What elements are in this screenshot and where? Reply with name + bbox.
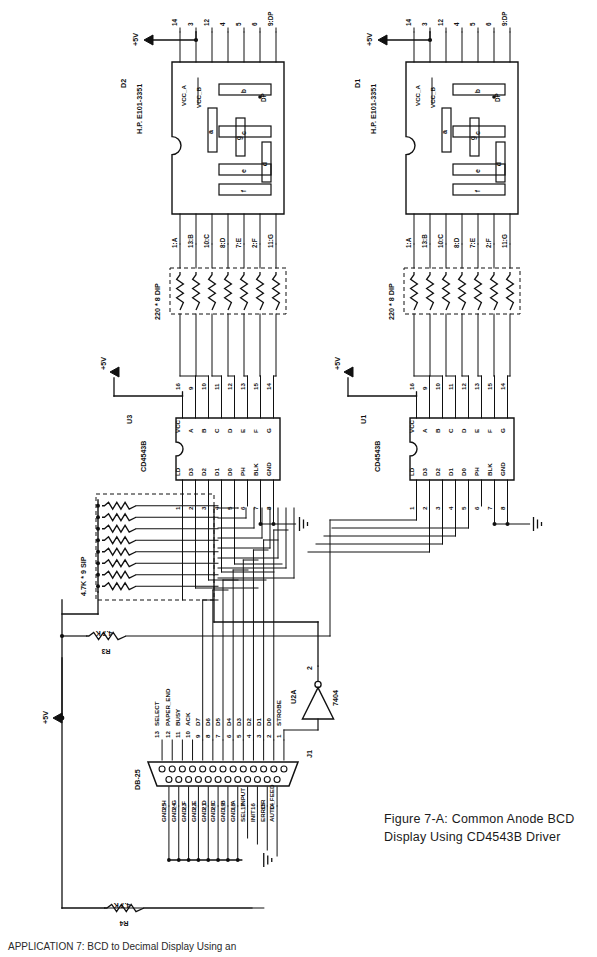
ic-pin-number-bottom: 6 [473, 506, 480, 510]
ic-pin-number-top: 15 [252, 383, 259, 390]
ic-pin-name-bottom: GND [499, 462, 506, 476]
db25-gnd-junction [236, 858, 240, 862]
display-pin-label-bottom: 10:C [203, 234, 210, 248]
display-segment-label-b: b [474, 89, 481, 93]
db25-pin-name-top: D5 [214, 718, 221, 726]
ic-vcc-rail-label: +5V [99, 357, 108, 370]
ic-pin-name-top: E [473, 429, 480, 433]
db25-pin-name-bottom: GND_H [160, 800, 167, 822]
db25-pin-number-top: 13 [153, 731, 160, 738]
ic-pin-name-bottom: D0 [460, 468, 467, 476]
display-segment-label-e: e [474, 169, 481, 173]
ic-pin-name-top: VCC [174, 419, 181, 433]
db25-pin-name-bottom: GND_E [190, 801, 197, 822]
display-part-D1: H.P. E101-3351 [369, 84, 378, 134]
db25-pin-number-top: 8 [204, 734, 211, 738]
ic-part-U1: CD4543B [373, 440, 382, 472]
db25-pin-number-top: 3 [255, 734, 262, 738]
ic-pin-name-bottom: BLK [486, 463, 493, 476]
display-pin-label-bottom: 1:A [171, 237, 178, 248]
db25-pin-name-bottom: AUTO_FEED [268, 784, 275, 822]
ic-pin-number-top: 13 [473, 383, 480, 390]
ic-pin-name-top: B [434, 428, 441, 433]
display-segment-label-a: a [441, 130, 448, 134]
display-pin-label-bottom: 2:F [251, 238, 258, 248]
db25-pin-name-bottom: ERROR [259, 799, 266, 822]
ic-pin-name-bottom: D1 [213, 468, 220, 476]
resistor-pack-label: 220 * 8 DIP [387, 283, 396, 320]
ic-pin-name-bottom: BLK [252, 463, 259, 476]
db25-pin-name-bottom: GND_B [219, 800, 226, 822]
display-pin-label-bottom: 13:B [187, 234, 194, 248]
display-pin-label-bottom: 10:C [437, 234, 444, 248]
resistor-pack-label: 220 * 8 DIP [153, 283, 162, 320]
ic-pin-name-top: C [213, 428, 220, 433]
db25-ref-label: J1 [305, 750, 314, 758]
inverter-part-label: 7404 [331, 690, 340, 706]
r3-ref-label: R3 [101, 648, 110, 655]
ic-pin-name-top: D [226, 428, 233, 433]
db25-pin-number-top: 1 [275, 734, 282, 738]
ic-gnd-junction [493, 522, 497, 526]
display-segment-label-g: g [235, 136, 243, 140]
display-segment-label-a: a [207, 130, 214, 134]
db25-pin-number-top: 7 [214, 734, 221, 738]
ic-pin-number-bottom: 3 [200, 506, 207, 510]
ic-pin-name-top: F [252, 429, 259, 433]
sip-common-junction [96, 573, 100, 577]
ic-pin-number-top: 14 [265, 383, 272, 390]
display-pin-label-bottom: 1:A [405, 237, 412, 248]
r4-ref-label: R4 [119, 920, 128, 927]
ic-ref-U1: U1 [359, 415, 368, 424]
db25-pin-name-bottom: GND_G [170, 800, 177, 822]
db25-pin-name-top: BUSY [174, 708, 181, 726]
db25-pin-name-top: D0 [265, 718, 272, 726]
display-pin-number-top: 5 [235, 22, 242, 26]
db25-pin-name-bottom: GND_C [209, 800, 216, 822]
db25-pin-name-top: D2 [245, 718, 252, 726]
display-pin-number-top: 14 [405, 18, 412, 26]
display-segment-label-e: e [240, 169, 247, 173]
ic-pin-number-bottom: 6 [239, 506, 246, 510]
display-ref-D2: D2 [119, 79, 128, 88]
sip-common-junction [96, 584, 100, 588]
display-pin-label-bottom: 2:F [485, 238, 492, 248]
db25-pin-number-top: 9 [194, 734, 201, 738]
sip-common-junction [96, 561, 100, 565]
display-pin-label-bottom: 8:D [219, 237, 226, 248]
display-segment-label-b: b [240, 89, 247, 93]
ic-vcc-rail-label: +5V [333, 357, 342, 370]
ic-pin-name-bottom: D3 [421, 468, 428, 476]
ic-pin-number-top: 11 [447, 383, 454, 390]
figure-caption: Figure 7-A: Common Anode BCD Display Usi… [384, 812, 574, 844]
ic-pin-number-top: 13 [239, 383, 246, 390]
ic-part-U3: CD4543B [139, 440, 148, 472]
inverter-pin-out-label: 2 [306, 666, 313, 670]
ic-pin-number-top: 10 [434, 383, 441, 390]
db25-pin-name-top: D6 [204, 718, 211, 726]
db25-pin-name-bottom: SEL_INPUT [239, 788, 246, 822]
ic-pin-name-top: A [421, 428, 428, 433]
ic-pin-number-top: 10 [200, 383, 207, 390]
ic-pin-number-bottom: 8 [265, 506, 272, 510]
display-pin-number-top: 12 [203, 18, 210, 26]
db25-pin-name-top: D7 [194, 718, 201, 726]
sip-common-junction [96, 504, 100, 508]
ic-pin-number-bottom: 1 [408, 506, 415, 510]
db25-pin-number-top: 6 [225, 734, 232, 738]
ic-pin-number-top: 9 [421, 386, 428, 390]
display-pin-number-top: 5 [469, 22, 476, 26]
display-pin-number-top: 4 [453, 22, 460, 26]
ic-pin-name-top: VCC [408, 419, 415, 433]
db25-pin-name-bottom: INIT [249, 810, 256, 822]
db25-pin-number-top: 4 [245, 734, 252, 738]
figure-caption-line-1: Figure 7-A: Common Anode BCD [384, 812, 574, 826]
display-pin-number-top: 4 [219, 22, 226, 26]
ic-pin-name-top: B [200, 428, 207, 433]
db25-pin-name-bottom: GND_D [200, 800, 207, 822]
ic-pin-number-top: 14 [499, 383, 506, 390]
ic-pin-number-bottom: 7 [252, 506, 259, 510]
ic-gnd-junction [272, 522, 276, 526]
figure-caption-line-2: Display Using CD4543B Driver [384, 830, 574, 844]
db25-pin-name-bottom: GND_F [180, 801, 187, 822]
